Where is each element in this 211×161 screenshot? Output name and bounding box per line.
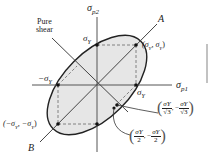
sigma-p1-label: σp1 bbox=[176, 80, 188, 93]
corner-negative-label: (−σY, −σY) bbox=[3, 120, 37, 130]
leader-sqrt3 bbox=[117, 105, 158, 113]
sigma-p2-label: σp2 bbox=[87, 3, 99, 16]
pure-shear-label: Pureshear bbox=[36, 18, 53, 34]
corner-positive-label: (σY, σY) bbox=[142, 41, 165, 51]
neg-sigma-y-label: −σY bbox=[38, 74, 52, 85]
sigma-y-right-label: σY bbox=[137, 88, 145, 99]
line-b-label: B bbox=[28, 143, 34, 153]
line-a-label: A bbox=[158, 14, 164, 24]
pure-shear-vm-annotation: (σY√3, −σY√3) bbox=[157, 100, 194, 116]
pure-shear-tresca-annotation: (σY2, −σY2) bbox=[129, 128, 166, 144]
sigma-y-top-label: σY bbox=[83, 34, 91, 45]
